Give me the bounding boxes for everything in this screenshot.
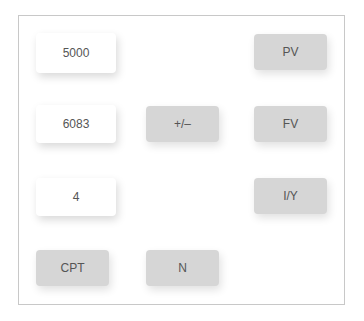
value-box-6083: 6083 bbox=[36, 105, 116, 143]
pv-key[interactable]: PV bbox=[254, 34, 327, 70]
cpt-key[interactable]: CPT bbox=[36, 250, 109, 286]
sign-change-key[interactable]: +/– bbox=[146, 106, 219, 142]
iy-key[interactable]: I/Y bbox=[254, 178, 327, 214]
fv-key[interactable]: FV bbox=[254, 106, 327, 142]
calculator-panel: 5000 6083 4 CPT +/– N PV FV I/Y bbox=[18, 15, 345, 305]
value-box-4: 4 bbox=[36, 178, 116, 216]
value-box-5000: 5000 bbox=[36, 33, 116, 73]
n-key[interactable]: N bbox=[146, 250, 219, 286]
